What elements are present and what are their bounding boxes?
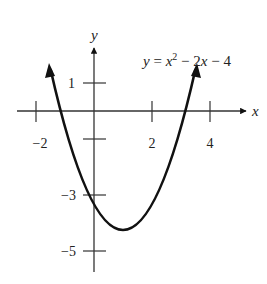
y-tick-label: 1 [68, 76, 75, 91]
parabola-curve [51, 69, 196, 230]
y-axis-label: y [89, 27, 98, 43]
y-tick-label: −3 [61, 188, 76, 203]
curve-arrow-left-icon [45, 63, 55, 78]
x-tick-label: 4 [207, 136, 214, 151]
y-tick-label: −5 [61, 244, 76, 259]
x-tick-label: −2 [33, 136, 48, 151]
x-axis-label: x [251, 103, 259, 119]
x-tick-label: 2 [149, 136, 156, 151]
parabola-chart: −2 2 4 1 −3 −5 x y y = x2 − 2x − 4 [0, 0, 267, 284]
equation-label: y = x2 − 2x − 4 [141, 51, 231, 69]
